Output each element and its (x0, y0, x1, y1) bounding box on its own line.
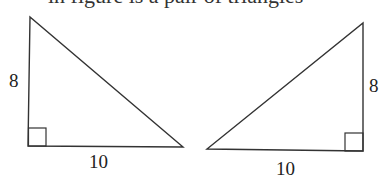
left-right-angle-marker (29, 128, 47, 146)
left-triangle-shape (28, 17, 183, 147)
left-triangle: 8 10 (9, 17, 183, 172)
right-triangle-shape (207, 23, 363, 151)
right-triangle: 8 10 (207, 23, 379, 179)
right-vertical-leg-label: 8 (369, 75, 379, 96)
left-horizontal-leg-label: 10 (89, 151, 108, 172)
right-horizontal-leg-label: 10 (276, 158, 295, 179)
left-vertical-leg-label: 8 (9, 70, 19, 91)
triangles-diagram: 8 10 8 10 (0, 0, 386, 187)
right-right-angle-marker (345, 133, 363, 151)
